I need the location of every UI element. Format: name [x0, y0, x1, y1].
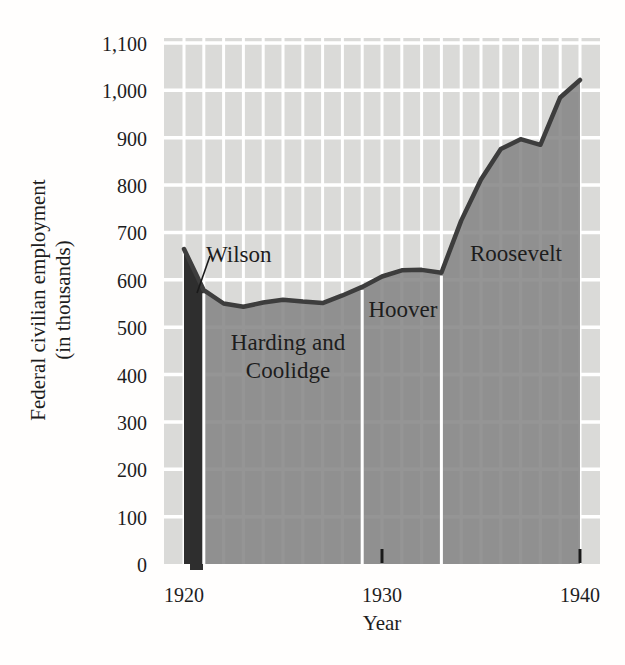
annotation-harding-coolidge: Harding and Coolidge — [188, 329, 388, 385]
employment-chart-figure: Federal civilian employment (in thousand… — [0, 0, 625, 665]
annotation-hoover: Hoover — [343, 296, 463, 324]
annotation-roosevelt: Roosevelt — [436, 240, 596, 268]
annotation-harding-coolidge-line1: Harding and — [188, 329, 388, 357]
x-tick-label: 1930 — [347, 584, 417, 607]
x-tick-label: 1920 — [149, 584, 219, 607]
annotation-wilson: Wilson — [206, 241, 272, 269]
x-tick-label: 1940 — [545, 584, 615, 607]
annotation-harding-coolidge-line2: Coolidge — [188, 357, 388, 385]
x-axis-title: Year — [312, 611, 452, 636]
